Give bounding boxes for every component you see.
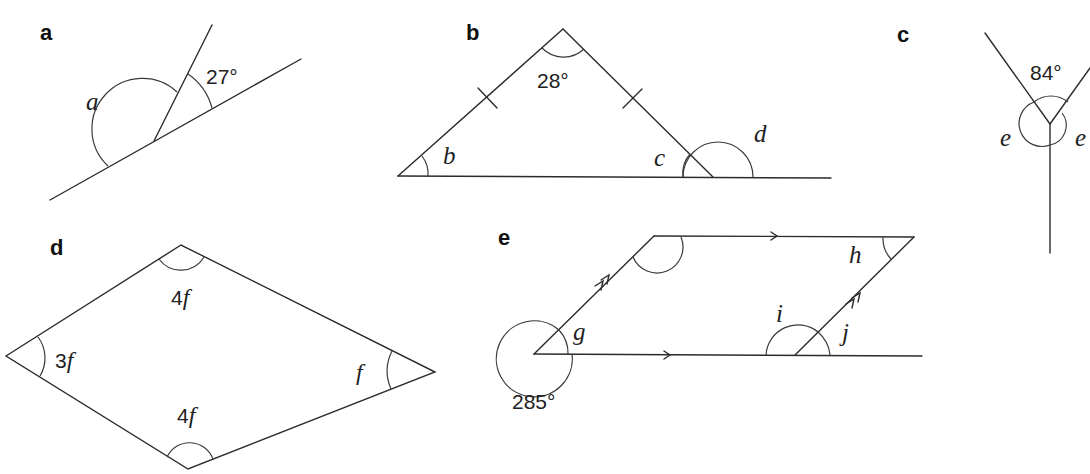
- angle-arc-h: [883, 237, 891, 259]
- part-label-e: e: [498, 225, 510, 250]
- angle-arc-top: [159, 257, 204, 270]
- angle-label-i: i: [776, 300, 783, 327]
- part-label-b: b: [466, 20, 479, 45]
- angle-arc-b: [422, 156, 428, 177]
- angle-arc-left: [38, 337, 45, 376]
- angle-label-e-right: e: [1075, 124, 1086, 151]
- angle-label-left: 3f: [55, 347, 77, 373]
- angle-arc-g: [559, 330, 568, 354]
- top-side: [654, 236, 914, 237]
- angle-label-28: 28°: [537, 69, 569, 92]
- parallel-arrow-left-1: [595, 281, 603, 290]
- figure-b: b 28° b c d: [398, 20, 831, 178]
- figure-a: a 27° a: [40, 20, 301, 200]
- angle-label-right: f: [356, 359, 366, 385]
- angle-label-g: g: [573, 318, 586, 345]
- angle-label-a: a: [86, 88, 99, 115]
- angle-label-285: 285°: [512, 390, 555, 413]
- figure-c: c 84° e e: [897, 22, 1090, 253]
- angle-arc-top-left: [633, 237, 683, 273]
- base-line: [398, 176, 831, 178]
- angle-label-bottom: 4f: [177, 402, 199, 428]
- base-line-extended: [534, 354, 922, 356]
- angle-arc-d: [683, 142, 753, 177]
- part-label-a: a: [40, 20, 53, 45]
- angle-label-d: d: [754, 120, 767, 147]
- angle-label-27: 27°: [206, 65, 238, 88]
- angle-arc-right: [387, 351, 392, 389]
- angle-label-b: b: [443, 142, 456, 169]
- angle-label-j: j: [839, 319, 849, 346]
- figure-d: d 4f 3f f 4f: [6, 235, 435, 469]
- triangle-left-side: [398, 29, 563, 176]
- angle-arc-28: [542, 48, 584, 57]
- angle-arc-e-left: [1019, 102, 1050, 146]
- straight-line: [50, 59, 301, 200]
- angle-arc-bottom: [167, 443, 213, 459]
- angle-label-c: c: [654, 144, 665, 171]
- angle-label-h: h: [849, 241, 862, 268]
- left-side: [534, 236, 654, 354]
- angle-label-e-left: e: [1000, 124, 1011, 151]
- part-label-d: d: [50, 235, 63, 260]
- angle-arc-j: [818, 332, 830, 355]
- geometry-diagram: a 27° a b 28° b c d c 84° e e: [0, 0, 1090, 474]
- angle-arc-e-right: [1050, 113, 1066, 145]
- part-label-c: c: [897, 22, 909, 47]
- figure-e: e 285° g h i j: [496, 225, 922, 413]
- angle-arc-84: [1034, 96, 1068, 102]
- angle-label-84: 84°: [1030, 61, 1062, 84]
- angle-label-top: 4f: [171, 284, 193, 310]
